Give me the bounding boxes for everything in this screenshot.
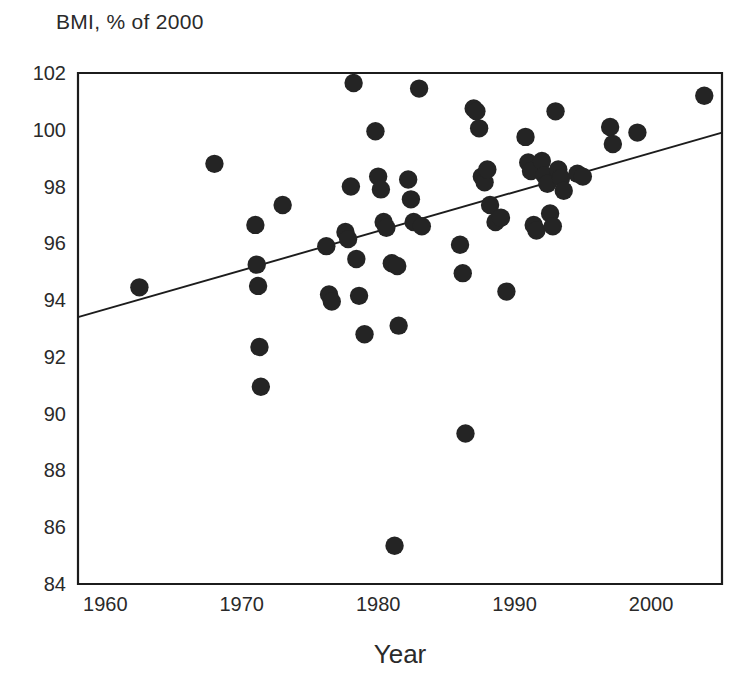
data-point [350, 287, 368, 305]
x-tick-label: 1990 [492, 593, 537, 615]
data-point [344, 74, 362, 92]
x-axis-title: Year [374, 639, 427, 669]
y-axis-tick-labels: 8486889092949698100102 [33, 62, 66, 595]
regression-line [78, 133, 722, 318]
y-tick-label: 96 [44, 232, 66, 254]
data-point [388, 257, 406, 275]
data-point [456, 424, 474, 442]
data-point [372, 180, 390, 198]
data-point [546, 102, 564, 120]
data-point [467, 102, 485, 120]
x-tick-label: 1970 [219, 593, 264, 615]
data-point [342, 177, 360, 195]
data-point [355, 325, 373, 343]
data-points-group [130, 74, 713, 555]
data-point [366, 122, 384, 140]
data-point [248, 255, 266, 273]
data-point [628, 123, 646, 141]
data-point [249, 277, 267, 295]
data-point [246, 216, 264, 234]
data-point [497, 282, 515, 300]
data-point [454, 264, 472, 282]
x-tick-label: 1960 [83, 593, 128, 615]
data-point [410, 79, 428, 97]
data-point [470, 119, 488, 137]
data-point [205, 155, 223, 173]
data-point [492, 209, 510, 227]
y-tick-label: 102 [33, 62, 66, 84]
data-point [413, 217, 431, 235]
data-point [527, 221, 545, 239]
data-point [347, 250, 365, 268]
x-tick-label: 2000 [629, 593, 674, 615]
trend-line [78, 133, 722, 318]
data-point [252, 377, 270, 395]
data-point [544, 217, 562, 235]
y-tick-label: 84 [44, 573, 66, 595]
y-tick-label: 88 [44, 459, 66, 481]
data-point [451, 236, 469, 254]
data-point [273, 196, 291, 214]
data-point [323, 292, 341, 310]
data-point [385, 536, 403, 554]
data-point [399, 170, 417, 188]
data-point [604, 135, 622, 153]
data-point [574, 167, 592, 185]
data-point [377, 219, 395, 237]
y-tick-label: 100 [33, 119, 66, 141]
chart-figure: BMI, % of 2000 8486889092949698100102 19… [0, 0, 755, 688]
scatter-plot: 8486889092949698100102 19601970198019902… [0, 0, 755, 688]
data-point [478, 160, 496, 178]
data-point [402, 190, 420, 208]
data-point [695, 87, 713, 105]
y-tick-label: 98 [44, 176, 66, 198]
x-tick-label: 1980 [356, 593, 401, 615]
y-tick-label: 92 [44, 346, 66, 368]
x-axis-tick-labels: 19601970198019902000 [83, 593, 673, 615]
y-tick-label: 94 [44, 289, 66, 311]
y-tick-label: 86 [44, 516, 66, 538]
data-point [601, 118, 619, 136]
data-point [250, 338, 268, 356]
y-tick-label: 90 [44, 403, 66, 425]
data-point [317, 237, 335, 255]
data-point [339, 230, 357, 248]
data-point [516, 128, 534, 146]
data-point [130, 278, 148, 296]
data-point [389, 316, 407, 334]
data-point [555, 182, 573, 200]
